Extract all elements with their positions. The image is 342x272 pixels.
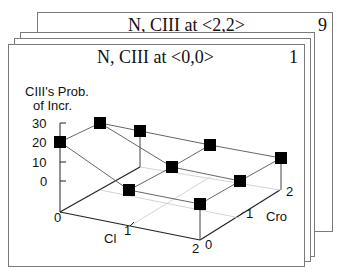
marker (234, 175, 246, 187)
cl-tick-2: 2 (192, 241, 199, 256)
z-tick-30: 30 (32, 116, 46, 131)
cl-axis-label: Cl (104, 231, 116, 246)
cro-tick-1: 1 (246, 206, 253, 221)
cl-tick-0: 0 (54, 210, 61, 225)
cl-tick-1: 1 (124, 223, 131, 238)
marker (166, 161, 178, 173)
cro-tick-0: 0 (205, 237, 212, 252)
marker (275, 152, 287, 164)
marker (134, 125, 146, 137)
marker (123, 184, 135, 196)
cro-tick-2: 2 (286, 184, 293, 199)
z-label-1: CIII's Prob. (25, 84, 89, 99)
z-tick-20: 20 (32, 135, 46, 150)
marker (204, 139, 216, 151)
marker (54, 136, 66, 148)
z-tick-10: 10 (32, 155, 46, 170)
plot-3d: CIII's Prob. of Incr. 30 20 10 0 0 1 2 0… (0, 0, 342, 272)
marker (194, 198, 206, 210)
z-tick-0: 0 (40, 174, 47, 189)
marker (94, 117, 106, 129)
cro-axis-label: Cro (266, 209, 287, 224)
z-label-2: of Incr. (33, 98, 72, 113)
base-plane (60, 167, 280, 240)
